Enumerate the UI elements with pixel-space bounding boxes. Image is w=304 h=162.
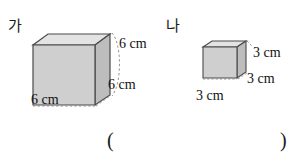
dim-ga-depth: 6 cm (108, 78, 136, 92)
dim-na-depth: 3 cm (247, 72, 275, 86)
cube-na-front-face (203, 47, 237, 78)
figure-canvas: 가 6 cm 6 cm 6 cm 나 3 cm 3 cm 3 cm ( ) (0, 0, 304, 162)
figure-label-ga: 가 (8, 18, 22, 33)
figure-label-na: 나 (166, 18, 180, 33)
answer-close-paren: ) (280, 130, 287, 150)
cube-na-side-face (237, 41, 246, 78)
answer-open-paren: ( (107, 130, 114, 150)
dim-na-width: 3 cm (196, 89, 224, 103)
dim-na-height: 3 cm (253, 46, 281, 60)
dim-ga-height: 6 cm (119, 37, 147, 51)
cube-na-height-leader (247, 41, 252, 46)
dim-ga-width: 6 cm (31, 93, 59, 107)
